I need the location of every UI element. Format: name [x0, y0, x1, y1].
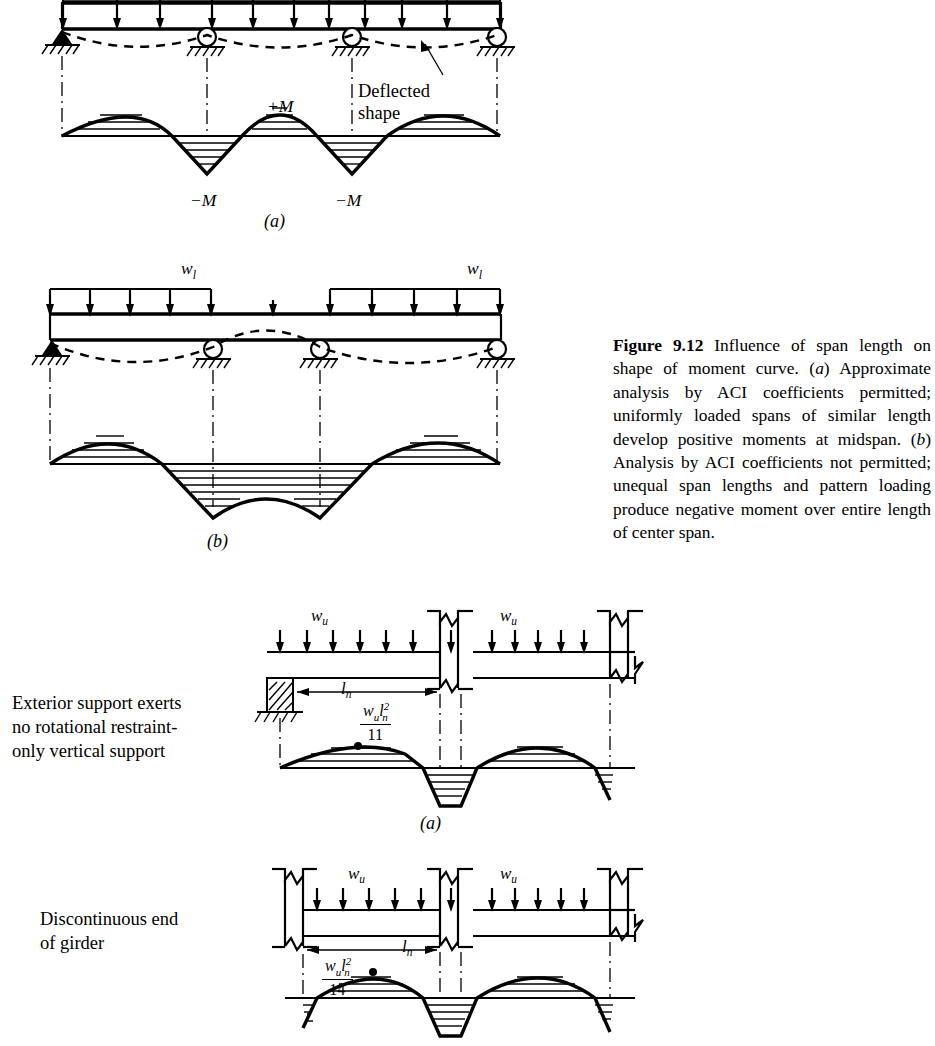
negative-moment-label-a-right: −M [335, 190, 361, 211]
formula-denominator-a: 11 [360, 725, 391, 744]
load-label-lower-b-right: wu [500, 864, 517, 885]
span-label-lower-b: ln [402, 937, 412, 958]
beam-b [50, 314, 501, 340]
load-arrows-lower-b-right [447, 888, 588, 912]
span-dimension-lower-a [297, 688, 437, 696]
moment-diagram-b [50, 436, 500, 518]
formula-denominator-b: 14 [322, 980, 353, 999]
load-arrows-lower-a-right [447, 630, 588, 654]
load-label-lower-a-right: wu [500, 606, 517, 627]
projection-lines-lower-a [280, 684, 610, 768]
deflected-shape-curve-b [50, 331, 497, 364]
beam-a [62, 2, 501, 29]
moment-diagram-lower-a [280, 742, 635, 806]
moment-diagram-a [62, 108, 500, 174]
support-roller-3 [477, 28, 515, 56]
load-label-b-right: wl [467, 258, 482, 283]
panel-a-sublabel: (a) [264, 211, 285, 232]
figure-panel-lower-b [255, 858, 675, 1046]
support-roller-1 [187, 28, 225, 56]
moment-formula-lower-a: wul2n 11 [360, 700, 391, 744]
support-roller-b-2 [300, 340, 338, 368]
formula-numerator-b: wul2n [322, 955, 353, 980]
negative-moment-label-a-left: −M [190, 190, 216, 211]
exterior-support-note: Exterior support exerts no rotational re… [12, 691, 262, 763]
positive-moment-label-a: +M [267, 96, 293, 117]
support-roller-2 [332, 28, 370, 56]
caption-figure-number: 9.12 [673, 335, 703, 355]
caption-ital-b: b [917, 429, 926, 449]
load-label-lower-b-left: wu [348, 864, 365, 885]
panel-lower-a-sublabel: (a) [420, 813, 441, 834]
projection-lines-b [50, 368, 497, 507]
load-label-lower-a-left: wu [311, 606, 328, 627]
support-pin-left [42, 29, 80, 54]
span-label-lower-a: ln [341, 679, 351, 700]
peak-moment-dot-b [369, 968, 377, 976]
caption-ital-a: a [815, 358, 824, 378]
load-arrows-lower-b-left [313, 888, 425, 912]
span-dimension-lower-b [307, 946, 437, 954]
load-arrows-lower-a-left [276, 630, 417, 654]
caption-figure-word: Figure [613, 335, 662, 355]
figure-panel-lower-a [255, 600, 675, 835]
support-roller-b-1 [193, 340, 231, 368]
deflected-shape-label: Deflected shape [358, 81, 430, 125]
panel-b-sublabel: (b) [207, 531, 228, 552]
discontinuous-end-note: Discontinuous end of girder [40, 907, 280, 955]
figure-panel-b [0, 252, 560, 552]
moment-formula-lower-b: wul2n 14 [322, 955, 353, 999]
deflected-shape-leader [421, 40, 443, 75]
deflected-shape-curve-a [62, 32, 497, 48]
formula-numerator-a: wul2n [360, 700, 391, 725]
exterior-masonry-support [255, 678, 303, 722]
figure-caption: Figure 9.12 Influence of span length on … [613, 334, 931, 545]
load-label-b-left: wl [181, 258, 196, 283]
support-roller-b-3 [477, 340, 515, 368]
